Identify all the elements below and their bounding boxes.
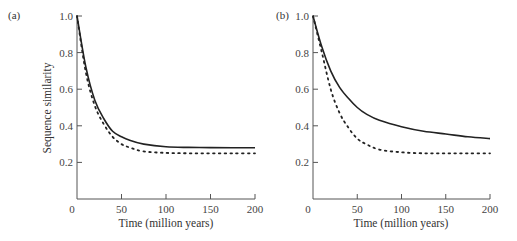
y-tick-label: 0.8 xyxy=(59,47,73,59)
panel-a-x-axis-title: Time (million years) xyxy=(119,217,214,230)
x-tick-label: 50 xyxy=(116,203,128,215)
y-tick-label: 1.0 xyxy=(295,10,309,22)
panel-a-axes xyxy=(77,16,255,199)
y-tick-label: 0.2 xyxy=(59,156,73,168)
x-tick-label: 0 xyxy=(305,203,311,215)
panel-a-x-ticks: 050100150200 xyxy=(69,194,264,215)
panel-b-y-ticks: 0.20.40.60.81.0 xyxy=(295,10,318,168)
panel-a: (a) 0.20.40.60.81.0 050100150200 Time (m… xyxy=(8,9,264,230)
panel-b-dotted-curve xyxy=(313,16,490,153)
x-tick-label: 100 xyxy=(393,203,410,215)
x-tick-label: 150 xyxy=(202,203,219,215)
panel-a-y-axis-title: Sequence similarity xyxy=(41,62,54,153)
x-tick-label: 100 xyxy=(158,203,175,215)
y-tick-label: 0.4 xyxy=(295,120,309,132)
x-tick-label: 50 xyxy=(352,203,364,215)
panel-b-label: (b) xyxy=(276,9,289,22)
y-tick-label: 0.4 xyxy=(59,120,73,132)
panel-b-x-axis-title: Time (million years) xyxy=(354,217,449,230)
x-tick-label: 0 xyxy=(69,203,75,215)
panel-b: (b) 0.20.40.60.81.0 050100150200 Time (m… xyxy=(276,9,499,230)
panel-b-solid-curve xyxy=(313,16,490,139)
x-tick-label: 200 xyxy=(482,203,499,215)
y-tick-label: 0.8 xyxy=(295,47,309,59)
panel-a-label: (a) xyxy=(8,9,21,22)
y-tick-label: 0.6 xyxy=(59,83,73,95)
panel-a-dotted-curve xyxy=(77,16,255,153)
figure: (a) 0.20.40.60.81.0 050100150200 Time (m… xyxy=(0,0,517,241)
panel-a-solid-curve xyxy=(77,16,255,148)
y-tick-label: 0.6 xyxy=(295,83,309,95)
y-tick-label: 1.0 xyxy=(59,10,73,22)
panel-b-x-ticks: 050100150200 xyxy=(305,194,499,215)
panel-a-y-ticks: 0.20.40.60.81.0 xyxy=(59,10,82,168)
x-tick-label: 200 xyxy=(247,203,264,215)
x-tick-label: 150 xyxy=(438,203,455,215)
panel-b-axes xyxy=(313,16,490,199)
y-tick-label: 0.2 xyxy=(295,156,309,168)
